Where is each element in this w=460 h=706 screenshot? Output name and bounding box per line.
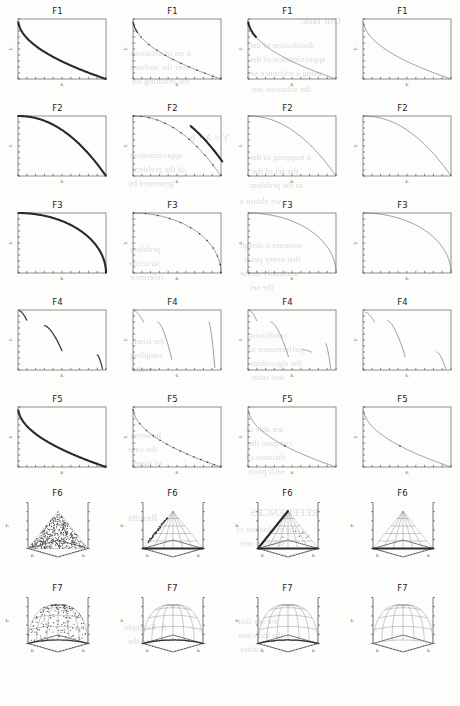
svg-text:f₁: f₁ — [175, 179, 178, 184]
svg-text:f₁: f₁ — [405, 276, 408, 281]
svg-text:f₁: f₁ — [405, 470, 408, 475]
plot-panel-f7-col4: F7f₁f₂f₃ — [345, 579, 460, 685]
plot-panel-f1-col4: F1f₁f₂ — [345, 2, 460, 99]
svg-text:f₂: f₂ — [353, 241, 358, 244]
svg-text:f₂: f₂ — [312, 553, 315, 558]
plot-canvas: f₁f₂ — [232, 15, 340, 91]
svg-text:f₂: f₂ — [197, 648, 200, 653]
svg-text:f₃: f₃ — [350, 523, 353, 528]
pareto-front-curve — [133, 213, 221, 273]
svg-text:f₁: f₁ — [146, 553, 149, 558]
plot-panel-f4-col2: F4f₁f₂ — [115, 293, 230, 390]
svg-text:f₂: f₂ — [8, 241, 13, 244]
svg-text:f₂: f₂ — [353, 47, 358, 50]
svg-text:f₁: f₁ — [175, 82, 178, 87]
plot-panel-f7-col1: F7f₁f₂f₃ — [0, 579, 115, 685]
plot-panel-f1-col3: F1f₁f₂ — [230, 2, 345, 99]
svg-text:f₂: f₂ — [427, 553, 430, 558]
pareto-segment — [271, 322, 289, 357]
plot-canvas: f₁f₂ — [2, 15, 110, 91]
pareto-front-curve — [133, 116, 220, 176]
plot-canvas: f₁f₂f₃ — [2, 497, 110, 585]
pareto-front-curve — [133, 410, 220, 467]
svg-text:f₂: f₂ — [82, 553, 85, 558]
dome-longitude — [403, 605, 414, 641]
pareto-segment — [437, 352, 446, 369]
pareto-front-curve — [248, 213, 336, 273]
pareto-segment — [158, 322, 172, 359]
pareto-segment — [250, 311, 257, 321]
svg-text:f₂: f₂ — [123, 435, 128, 438]
plot-canvas: f₁f₂ — [117, 306, 225, 382]
plot-canvas: f₁f₂ — [117, 15, 225, 91]
pareto-segment — [366, 312, 375, 322]
plot-canvas: f₁f₂ — [2, 209, 110, 285]
svg-text:f₃: f₃ — [235, 618, 238, 623]
svg-text:f₁: f₁ — [290, 276, 293, 281]
pareto-front-curve — [18, 22, 105, 79]
plot-canvas: f₁f₂ — [347, 209, 455, 285]
dome-longitude — [173, 605, 203, 643]
pareto-front-curve — [248, 22, 335, 79]
plot-panel-f1-col2: F1f₁f₂ — [115, 2, 230, 99]
svg-text:f₂: f₂ — [238, 435, 243, 438]
svg-text:f₁: f₁ — [175, 373, 178, 378]
svg-text:f₁: f₁ — [60, 82, 63, 87]
plot-panel-f5-col3: F5f₁f₂ — [230, 390, 345, 484]
plot-panel-f1-col1: F1f₁f₂ — [0, 2, 115, 99]
svg-text:f₁: f₁ — [261, 648, 264, 653]
plot-panel-f6-col2: F6f₁f₂f₃ — [115, 484, 230, 579]
plot-canvas: f₁f₂ — [117, 112, 225, 188]
svg-text:f₁: f₁ — [60, 373, 63, 378]
plot-canvas: f₁f₂ — [232, 306, 340, 382]
svg-text:f₁: f₁ — [60, 470, 63, 475]
svg-text:f₂: f₂ — [82, 648, 85, 653]
plot-canvas: f₁f₂f₃ — [347, 592, 455, 680]
svg-text:f₃: f₃ — [350, 618, 353, 623]
dome-longitude — [258, 605, 288, 643]
pareto-front-curve — [363, 410, 450, 467]
plot-panel-f3-col4: F3f₁f₂ — [345, 196, 460, 293]
plot-canvas: f₁f₂f₃ — [117, 497, 225, 585]
svg-text:f₁: f₁ — [290, 373, 293, 378]
plot-panel-f4-col4: F4f₁f₂ — [345, 293, 460, 390]
plot-panel-f3-col3: F3f₁f₂ — [230, 196, 345, 293]
plot-panel-f5-col1: F5f₁f₂ — [0, 390, 115, 484]
svg-text:f₁: f₁ — [376, 648, 379, 653]
plot-panel-f3-col2: F3f₁f₂ — [115, 196, 230, 293]
svg-text:f₁: f₁ — [31, 553, 34, 558]
plot-canvas: f₁f₂ — [2, 403, 110, 479]
plot-canvas: f₁f₂ — [232, 112, 340, 188]
plot-canvas: f₁f₂ — [347, 112, 455, 188]
svg-text:f₁: f₁ — [175, 276, 178, 281]
pareto-front-curve — [363, 22, 450, 79]
plot-panel-f2-col3: F2f₁f₂ — [230, 99, 345, 196]
svg-text:f₃: f₃ — [120, 523, 123, 528]
dome-longitude — [392, 605, 403, 641]
pareto-front-curve — [363, 116, 450, 176]
dome-longitude — [143, 605, 173, 643]
plot-canvas: f₁f₂ — [232, 403, 340, 479]
plot-canvas: f₁f₂ — [2, 112, 110, 188]
plot-panel-f2-col1: F2f₁f₂ — [0, 99, 115, 196]
dome-longitude — [403, 605, 433, 643]
pareto-front-curve — [18, 410, 105, 467]
svg-text:f₂: f₂ — [8, 144, 13, 147]
plot-panel-f2-col2: F2f₁f₂ — [115, 99, 230, 196]
pareto-segment — [44, 326, 62, 351]
svg-text:f₁: f₁ — [146, 648, 149, 653]
plot-panel-f7-col3: F7f₁f₂f₃ — [230, 579, 345, 685]
dome-longitude — [277, 605, 288, 641]
dome-longitude — [288, 605, 318, 643]
plot-canvas: f₁f₂ — [117, 209, 225, 285]
svg-text:f₁: f₁ — [405, 179, 408, 184]
plot-panel-f3-col1: F3f₁f₂ — [0, 196, 115, 293]
plot-canvas: f₁f₂f₃ — [117, 592, 225, 680]
svg-text:f₂: f₂ — [123, 47, 128, 50]
pareto-segment — [20, 311, 27, 320]
pareto-front-curve — [363, 213, 451, 273]
figure-panel-grid: F1f₁f₂F1f₁f₂F1f₁f₂F1f₁f₂F2f₁f₂F2f₁f₂F2f₁… — [0, 0, 460, 706]
plot-canvas: f₁f₂f₃ — [2, 592, 110, 680]
pareto-segment — [303, 350, 312, 352]
svg-text:f₃: f₃ — [235, 523, 238, 528]
